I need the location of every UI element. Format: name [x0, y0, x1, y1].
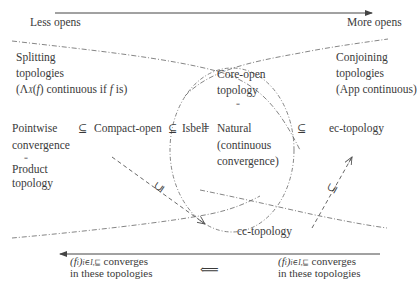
conjoining-label-line3: (App continuous): [336, 82, 417, 96]
lambda-open: (Λ: [16, 83, 28, 95]
product-line2: topology: [12, 176, 53, 190]
bottom-right-boundary-curve: [200, 190, 387, 228]
bottom-left-boundary-curve: [12, 196, 260, 238]
conjoining-label-line2: topologies: [336, 66, 384, 80]
less-opens-label: Less opens: [30, 15, 81, 29]
implies-arrow: ⟸: [200, 263, 219, 277]
f-prefix: (f: [278, 255, 285, 267]
splitting-label-line3: (ΛX(f) continuous if f is): [16, 82, 127, 98]
in-these-topologies-text: in these topologies: [70, 267, 153, 279]
natural-line3: convergence): [217, 154, 279, 168]
subset-compact-isbell: ⊆: [168, 121, 177, 135]
converges-text: converges: [309, 255, 356, 267]
more-opens-label: More opens: [347, 15, 402, 29]
pointwise-line1: Pointwise: [12, 121, 57, 135]
index-set: i∈I,⊑: [291, 258, 309, 267]
f-prefix: (f: [70, 255, 77, 267]
index-set: i∈I,⊑: [83, 258, 101, 267]
subset-pointwise-compact: ⊆: [78, 121, 87, 135]
continuous-text: ) continuous if: [40, 83, 110, 95]
pointwise-product-equals: =: [24, 154, 28, 162]
pointwise-line2: convergence: [12, 138, 70, 152]
subset-natural-ec: ⊆: [297, 121, 306, 135]
right-convergence-caption: (fi)i∈I,⊑ converges in these topologies: [278, 256, 361, 279]
left-convergence-caption: (fi)i∈I,⊑ converges in these topologies: [70, 256, 153, 279]
splitting-label-line1: Splitting: [16, 50, 56, 64]
is-text: is): [113, 83, 127, 95]
conjoining-label-line1: Conjoining: [336, 50, 388, 64]
converges-text: converges: [101, 255, 148, 267]
isbell-natural-equals: =: [203, 121, 210, 135]
natural-line1: Natural: [217, 121, 251, 135]
core-open-line2: topology: [217, 83, 258, 97]
core-natural-equals: =: [236, 100, 240, 108]
cc-topology-node: cc-topology: [237, 224, 292, 238]
product-line1: Product: [12, 162, 48, 176]
core-open-line1: Core-open: [217, 67, 266, 81]
compact-open-node: Compact-open: [94, 121, 162, 135]
natural-line2: (continuous: [217, 138, 271, 152]
splitting-label-line2: topologies: [16, 66, 64, 80]
in-these-topologies-text: in these topologies: [278, 267, 361, 279]
ec-topology-node: ec-topology: [329, 121, 384, 135]
